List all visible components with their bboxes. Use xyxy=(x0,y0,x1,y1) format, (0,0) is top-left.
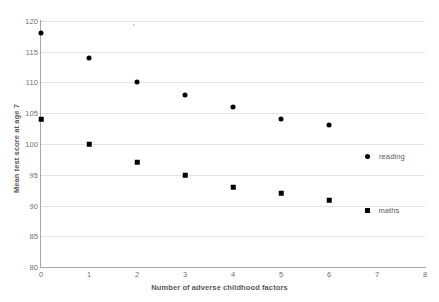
data-point xyxy=(231,105,236,110)
data-point xyxy=(327,198,332,203)
gridline-120 xyxy=(41,21,425,22)
y-tick-85: 85 xyxy=(4,232,38,241)
legend-label-reading: reading xyxy=(379,152,405,161)
data-point xyxy=(279,117,284,122)
x-tick-2: 2 xyxy=(127,270,147,279)
y-tick-120: 120 xyxy=(4,17,38,26)
data-point xyxy=(135,160,140,165)
data-point xyxy=(231,185,236,190)
x-tick-8: 8 xyxy=(415,270,435,279)
data-point xyxy=(135,80,140,85)
x-tick-4: 4 xyxy=(223,270,243,279)
gridline-85 xyxy=(41,236,425,237)
scatter-chart: 120 115 110 105 100 95 90 85 80 0 1 2 3 … xyxy=(0,0,439,302)
y-tick-105: 105 xyxy=(4,109,38,118)
legend-item-reading[interactable]: reading xyxy=(365,152,405,161)
y-axis-line xyxy=(40,20,41,268)
x-tick-7: 7 xyxy=(367,270,387,279)
y-tick-90: 90 xyxy=(4,202,38,211)
gridline-110 xyxy=(41,82,425,83)
gridline-100 xyxy=(41,144,425,145)
gridline-95 xyxy=(41,175,425,176)
data-point xyxy=(327,123,332,128)
x-tick-6: 6 xyxy=(319,270,339,279)
legend-item-maths[interactable]: maths xyxy=(365,206,399,215)
data-point xyxy=(87,56,92,61)
data-point xyxy=(183,173,188,178)
legend-label-maths: maths xyxy=(379,206,400,215)
data-point xyxy=(279,191,284,196)
x-tick-1: 1 xyxy=(79,270,99,279)
y-tick-95: 95 xyxy=(4,171,38,180)
x-tick-5: 5 xyxy=(271,270,291,279)
data-point xyxy=(39,117,44,122)
x-tick-0: 0 xyxy=(31,270,51,279)
gridline-115 xyxy=(41,52,425,53)
circle-marker-icon xyxy=(365,154,370,159)
y-tick-100: 100 xyxy=(4,140,38,149)
square-marker-icon xyxy=(365,208,370,213)
y-tick-115: 115 xyxy=(4,48,38,57)
image-speck xyxy=(133,24,135,26)
x-tick-3: 3 xyxy=(175,270,195,279)
y-axis-title: Mean test score at age 7 xyxy=(12,79,21,219)
data-point xyxy=(39,31,44,36)
gridline-105 xyxy=(41,113,425,114)
data-point xyxy=(87,142,92,147)
x-axis-title: Number of adverse childhood factors xyxy=(0,283,439,292)
x-axis-line xyxy=(40,267,426,268)
y-tick-110: 110 xyxy=(4,78,38,87)
data-point xyxy=(183,93,188,98)
